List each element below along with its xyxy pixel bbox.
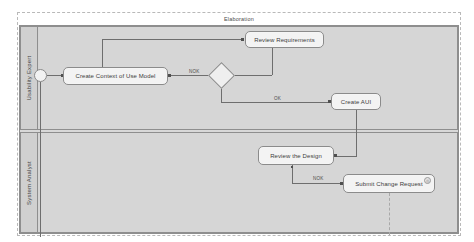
phase-title: Elaboration (19, 13, 459, 25)
guard-label-decision-nok: NOK (189, 69, 200, 74)
swimlane-label-system-analyst: System Analyst (26, 161, 32, 205)
action-review-the-design[interactable]: Review the Design (258, 146, 334, 165)
arrowhead-review-design-in (334, 154, 337, 157)
action-label-submit-change-request: Submit Change Request (355, 181, 422, 187)
arrowhead-review-design-loop-in (291, 166, 293, 168)
action-create-aui[interactable]: Create AUI (331, 93, 381, 110)
edge-review-requirements-to-decision (231, 75, 272, 76)
edge-up-to-review-requirements (102, 39, 243, 40)
edge-vertical-left-lifeline (40, 82, 41, 237)
guard-label-decision-ok: OK (274, 96, 281, 101)
edge-decision-nok-to-create-context (168, 75, 212, 76)
edge-create-context-up (102, 39, 103, 67)
activity-diagram-canvas: Elaboration Usability Expert System Anal… (0, 0, 474, 242)
edge-create-aui-down (356, 110, 357, 156)
action-submit-change-request[interactable]: Submit Change Request ◎ (343, 174, 435, 193)
action-review-requirements[interactable]: Review Requirements (245, 31, 324, 48)
guard-label-design-nok: NOK (313, 176, 324, 181)
arrowhead-review-requirements-in (241, 38, 244, 41)
action-label-create-aui: Create AUI (341, 99, 371, 105)
edge-create-aui-to-review-design (334, 156, 357, 157)
edge-decision-ok-to-create-aui (221, 102, 331, 103)
arrowhead-create-context-nok-in (168, 74, 171, 77)
swimlane-header-system-analyst: System Analyst (21, 133, 38, 232)
edge-submit-change-dashed-down (389, 193, 390, 235)
note-anchor-icon: ◎ (424, 177, 431, 184)
action-create-context-of-use-model[interactable]: Create Context of Use Model (63, 67, 168, 85)
edge-review-requirements-down (272, 48, 273, 75)
swimlane-label-usability-expert: Usability Expert (26, 56, 32, 101)
action-label-create-context-of-use-model: Create Context of Use Model (75, 73, 155, 79)
edge-review-design-nok-to-submit (292, 183, 343, 184)
action-label-review-the-design: Review the Design (270, 153, 322, 159)
action-label-review-requirements: Review Requirements (254, 37, 315, 43)
initial-node[interactable] (34, 69, 47, 82)
